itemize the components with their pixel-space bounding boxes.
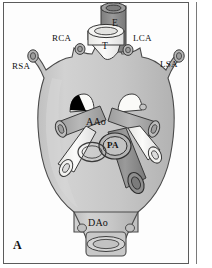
label-lsa: LSA bbox=[160, 59, 178, 69]
label-lca: LCA bbox=[133, 33, 152, 43]
label-rsa: RSA bbox=[12, 61, 30, 71]
label-aao: AAo bbox=[86, 116, 106, 127]
panel-letter: A bbox=[13, 238, 22, 253]
left-carotid-stump bbox=[123, 45, 133, 56]
label-rca: RCA bbox=[52, 33, 71, 43]
right-carotid-stump bbox=[75, 44, 85, 55]
label-t: T bbox=[102, 41, 108, 51]
label-e: E bbox=[112, 18, 118, 28]
figure-root: RSA RCA E T LCA LSA AAo PA DAo A bbox=[0, 0, 212, 268]
label-pa: PA bbox=[107, 140, 119, 150]
label-dao: DAo bbox=[88, 217, 108, 228]
